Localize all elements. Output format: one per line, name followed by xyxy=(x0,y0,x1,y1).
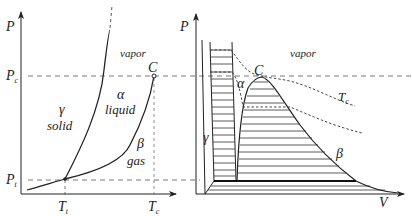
solid-symbol: γ xyxy=(59,102,65,117)
critical-point-label-left: C xyxy=(148,60,158,75)
right-y-axis-label: P xyxy=(179,19,189,34)
phase-diagrams: P Pc Pt Tt Tc C vapor γ solid α liquid β… xyxy=(0,0,412,216)
left-y-axis-label: P xyxy=(5,19,15,34)
solid-symbol-right: γ xyxy=(203,130,209,145)
pc-label: Pc xyxy=(5,68,19,85)
gas-symbol: β xyxy=(136,136,144,151)
triple-point xyxy=(63,177,67,181)
vapor-label-left: vapor xyxy=(120,47,146,59)
back-wall-left xyxy=(202,40,205,194)
vapor-label-right: vapor xyxy=(290,47,316,59)
column-left-edge xyxy=(210,42,214,181)
gas-label: gas xyxy=(127,153,145,168)
floor-diagonal xyxy=(205,181,214,194)
gas-symbol-right: β xyxy=(335,146,343,161)
liquid-label: liquid xyxy=(105,102,136,117)
liquid-symbol-right: α xyxy=(237,76,245,91)
pt-label: Pt xyxy=(5,172,18,189)
solid-label: solid xyxy=(47,118,73,133)
left-panel: P Pc Pt Tt Tc C vapor γ solid α liquid β… xyxy=(5,6,412,216)
dome-hatching xyxy=(238,82,347,173)
critical-point-label-right: C xyxy=(254,63,264,78)
tc-label: Tc xyxy=(148,199,160,216)
right-x-axis-label: V xyxy=(379,195,389,210)
right-panel: C vapor Tc α γ β P V xyxy=(179,14,404,210)
column-hatching xyxy=(211,50,236,176)
liquid-symbol: α xyxy=(117,87,125,102)
sublimation-curve xyxy=(27,179,65,190)
tt-label: Tt xyxy=(58,199,69,216)
melting-curve xyxy=(65,30,110,179)
melting-curve-dashed-ext xyxy=(110,6,112,28)
gas-tail-curve xyxy=(356,181,398,193)
isotherm-tc-label: Tc xyxy=(338,89,349,106)
column-right-edge xyxy=(232,42,236,181)
